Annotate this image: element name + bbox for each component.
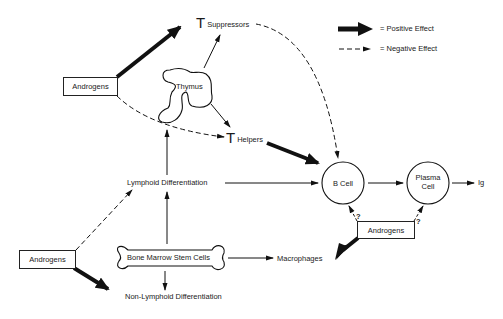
edge-thelpers-to-bcell bbox=[267, 143, 318, 163]
b-cell-label: B Cell bbox=[322, 179, 364, 188]
question-mark-plasmacell: ? bbox=[416, 218, 421, 226]
t-suppressors-label: TSuppressors bbox=[196, 15, 249, 30]
ig-label: Ig bbox=[478, 179, 484, 187]
lymphoid-differentiation-label: Lymphoid Differentiation bbox=[127, 179, 207, 187]
legend-positive-arrow bbox=[338, 22, 373, 36]
legend-positive-label: = Positive Effect bbox=[380, 25, 434, 33]
macrophages-label: Macrophages bbox=[277, 255, 322, 263]
edge-tsuppressors-to-bcell bbox=[256, 24, 338, 158]
t-helpers-t: T bbox=[226, 129, 235, 146]
androgens-bottom-label: Androgens bbox=[29, 255, 65, 264]
plasma-cell-label: Plasma Cell bbox=[407, 173, 449, 192]
question-mark-bcell: ? bbox=[356, 213, 361, 221]
bone-marrow-label: Bone Marrow Stem Cells bbox=[127, 254, 210, 262]
androgens-box-top: Androgens bbox=[63, 77, 118, 96]
androgens-box-right: Androgens bbox=[357, 221, 415, 239]
androgens-box-bottom: Androgens bbox=[19, 250, 76, 269]
edge-thymus-to-thelpers bbox=[211, 104, 230, 127]
androgens-right-label: Androgens bbox=[368, 226, 404, 235]
edge-androgens-bottom-to-nonlymphoid bbox=[74, 268, 108, 289]
t-helpers-label: THelpers bbox=[226, 130, 263, 145]
non-lymphoid-differentiation-label: Non-Lymphoid Differentiation bbox=[125, 293, 222, 301]
legend-negative-label: = Negative Effect bbox=[380, 45, 437, 53]
thymus-label: Thymus bbox=[176, 83, 203, 91]
androgens-top-label: Androgens bbox=[72, 82, 108, 91]
thymus-shape bbox=[159, 69, 212, 123]
edge-androgens-bottom-to-lymphoid bbox=[76, 190, 132, 250]
edge-thymus-to-tsuppressors bbox=[204, 35, 220, 68]
t-suppressors-t: T bbox=[196, 14, 205, 31]
